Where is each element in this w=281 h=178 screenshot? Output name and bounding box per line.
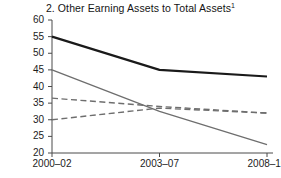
axis-lines — [52, 20, 273, 153]
chart-figure: 2. Other Earning Assets to Total Assets1… — [0, 0, 281, 178]
x-axis-ticks — [52, 153, 267, 157]
y-axis-tick-label: 20 — [18, 148, 44, 158]
y-axis-tick-label: 35 — [18, 98, 44, 108]
x-axis-tick-label: 2003–07 — [130, 158, 190, 169]
series-2-gray-solid — [52, 70, 267, 145]
y-axis-tick-label: 30 — [18, 115, 44, 125]
y-axis-tick-label: 40 — [18, 82, 44, 92]
data-series-group — [52, 37, 267, 145]
y-axis-tick-label: 60 — [18, 15, 44, 25]
x-axis-tick-label: 2000–02 — [22, 158, 82, 169]
y-axis-tick-label: 55 — [18, 32, 44, 42]
x-axis-tick-label: 2008–10 — [237, 158, 281, 169]
y-axis-ticks — [48, 20, 52, 153]
series-1-black-solid — [52, 37, 267, 77]
y-axis-tick-label: 50 — [18, 48, 44, 58]
y-axis-tick-label: 45 — [18, 65, 44, 75]
y-axis-tick-label: 25 — [18, 131, 44, 141]
series-4-gray-dashed-lower — [52, 108, 267, 120]
